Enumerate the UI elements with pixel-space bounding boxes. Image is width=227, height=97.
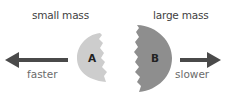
small-mass-label: small mass bbox=[32, 9, 89, 21]
left-arrow-icon bbox=[5, 52, 68, 68]
faster-label: faster bbox=[27, 68, 58, 80]
fragment-a-label: A bbox=[88, 52, 96, 64]
slower-label: slower bbox=[175, 68, 209, 80]
fragment-b-label: B bbox=[151, 52, 159, 64]
right-arrow-icon bbox=[180, 52, 221, 68]
large-mass-label: large mass bbox=[153, 9, 209, 21]
